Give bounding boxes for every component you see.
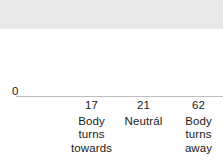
x-axis-category-0: Body turns towards <box>62 115 121 156</box>
x-axis-category-1-line-0: Neutrál <box>114 115 173 129</box>
x-axis-category-2-line-0: Body <box>169 115 223 129</box>
bar-body-turns-away <box>173 0 223 29</box>
y-axis-tick-0: 0 <box>12 86 19 98</box>
x-axis-category-0-line-0: Body <box>62 115 121 129</box>
x-axis-group-neutral: 21 Neutrál <box>114 99 173 128</box>
x-axis-group-body-turns-towards: 17 Body turns towards <box>62 99 121 155</box>
plot-area: 50 0 <box>0 0 223 98</box>
x-axis-category-0-line-1: turns <box>62 128 121 142</box>
bar-series <box>0 0 223 29</box>
x-axis-category-2: Body turns away <box>169 115 223 156</box>
x-axis-category-2-line-1: turns <box>169 128 223 142</box>
bar-chart: 50 0 17 Body turns towards 21 Neutrál <box>0 0 223 23</box>
x-axis-value-2: 62 <box>169 99 223 113</box>
x-axis-group-body-turns-away: 62 Body turns away <box>169 99 223 155</box>
x-axis-category-0-line-2: towards <box>62 142 121 156</box>
x-axis-value-1: 21 <box>114 99 173 113</box>
x-axis-value-0: 17 <box>62 99 121 113</box>
bar-body-turns-towards <box>70 0 113 29</box>
bar-neutral <box>122 0 165 29</box>
x-axis-category-1: Neutrál <box>114 115 173 129</box>
gridline-0 <box>16 96 223 97</box>
x-axis-category-2-line-2: away <box>169 142 223 156</box>
